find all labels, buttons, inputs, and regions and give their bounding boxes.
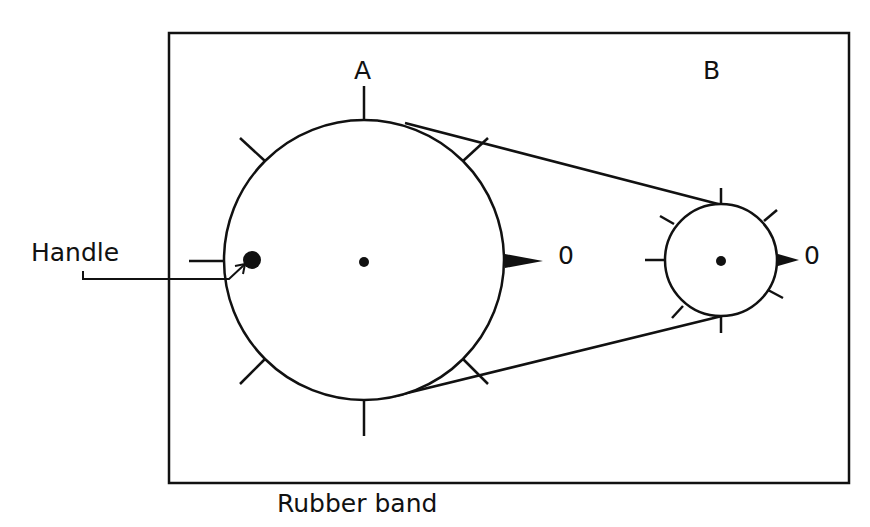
pulley-diagram — [0, 0, 870, 527]
label-handle: Handle — [31, 240, 119, 265]
label-pulley-b: B — [703, 58, 720, 83]
label-rubber-band: Rubber band — [277, 491, 437, 516]
label-zero-a: 0 — [558, 243, 574, 268]
handle-knob — [243, 251, 261, 269]
handle-leader-line — [83, 265, 244, 279]
pulley-a-axle — [359, 257, 369, 267]
pulley-a — [189, 86, 543, 436]
label-pulley-a: A — [354, 58, 371, 83]
pulley-b-axle — [716, 256, 726, 266]
pointer-a-icon — [505, 254, 543, 268]
pulley-b — [645, 188, 799, 333]
pointer-b-icon — [778, 254, 799, 266]
label-zero-b: 0 — [804, 243, 820, 268]
